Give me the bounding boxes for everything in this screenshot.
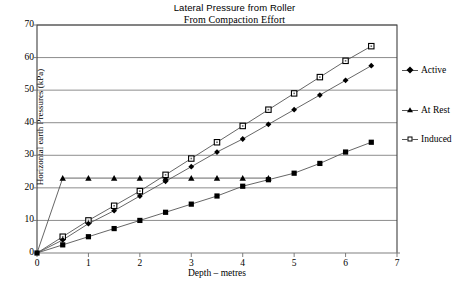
chart-figure: Lateral Pressure from Roller From Compac… [0, 0, 469, 287]
legend-marker-glyph [407, 107, 413, 112]
marker-open-square-dot [216, 141, 218, 143]
marker-diamond [317, 92, 323, 98]
marker-open-square-dot [165, 174, 167, 176]
marker-open-square [163, 172, 168, 177]
marker-open-square [343, 58, 348, 63]
marker-open-square [214, 140, 219, 145]
marker-square [369, 140, 374, 145]
marker-open-square [317, 74, 322, 79]
marker-open-square-dot [345, 60, 347, 62]
marker-open-square-dot [268, 109, 270, 111]
marker-square [292, 171, 297, 176]
marker-square [317, 161, 322, 166]
marker-open-square-dot [190, 158, 192, 160]
marker-open-square [266, 107, 271, 112]
legend-marker-glyph [406, 66, 413, 73]
marker-open-square-dot [113, 205, 115, 207]
marker-open-square-dot [370, 45, 372, 47]
marker-square [86, 234, 91, 239]
marker-diamond [368, 63, 374, 69]
marker-open-square-dot [293, 93, 295, 95]
marker-square [34, 250, 39, 255]
legend-label: At Rest [421, 105, 450, 115]
plot-area [0, 0, 469, 287]
marker-open-square [369, 43, 374, 48]
legend-marker-filled-triangle-icon [402, 105, 418, 115]
legend-label: Active [421, 65, 446, 75]
marker-square [240, 184, 245, 189]
legend-label: Induced [421, 134, 452, 144]
marker-diamond [188, 164, 194, 170]
marker-diamond [343, 77, 349, 83]
legend-marker-open-square-icon [402, 134, 418, 144]
marker-open-square [291, 91, 296, 96]
marker-square [137, 218, 142, 223]
marker-square [60, 242, 65, 247]
marker-diamond [214, 149, 220, 155]
marker-open-square [240, 123, 245, 128]
marker-diamond [240, 136, 246, 142]
marker-square [214, 193, 219, 198]
marker-open-square [189, 156, 194, 161]
marker-square [163, 210, 168, 215]
marker-square [343, 149, 348, 154]
legend-item-induced[interactable]: Induced [402, 132, 452, 146]
marker-square [112, 226, 117, 231]
marker-open-square [111, 203, 116, 208]
marker-square [189, 202, 194, 207]
marker-diamond [291, 107, 297, 113]
legend-item-at-rest[interactable]: At Rest [402, 103, 450, 117]
legend-item-active[interactable]: Active [402, 63, 446, 77]
marker-open-square-dot [319, 76, 321, 78]
marker-open-square-dot [139, 190, 141, 192]
marker-open-square-dot [242, 125, 244, 127]
marker-open-square [137, 188, 142, 193]
legend-marker-glyph [408, 137, 413, 142]
legend-marker-filled-diamond-icon [402, 65, 418, 75]
